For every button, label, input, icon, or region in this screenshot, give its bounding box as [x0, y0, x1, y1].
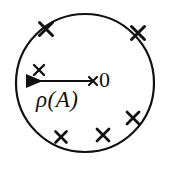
cross-lower-right	[127, 112, 139, 124]
boundary-circle	[16, 14, 154, 152]
radius-label-rho-a: ρ(A)	[36, 88, 78, 111]
cross-inner-left	[34, 65, 44, 75]
cross-bottom-centre	[97, 129, 109, 141]
origin-label: 0	[99, 69, 110, 91]
cross-bottom-left	[56, 132, 67, 143]
diagram-canvas	[0, 0, 171, 174]
figure-container: ρ(A) 0	[0, 0, 171, 174]
